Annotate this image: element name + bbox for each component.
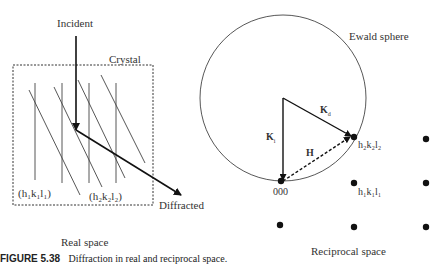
point-h1k1l1-label: h₁k₁l₁ xyxy=(358,186,381,197)
incident-label: Incident xyxy=(57,17,93,29)
point-h2k2l2-label: h₂k₂l₂ xyxy=(358,139,381,150)
figure-number: FIGURE 5.38 xyxy=(0,253,60,264)
real-space-panel xyxy=(13,36,181,205)
plane-label-2: (h₂k₂l₂) xyxy=(89,190,122,202)
origin-label: 000 xyxy=(273,186,288,197)
reciprocal-lattice-points xyxy=(277,134,429,230)
ewald-sphere-label: Ewald sphere xyxy=(349,30,409,42)
lattice-planes-2 xyxy=(29,75,145,195)
diffracted-label: Diffracted xyxy=(159,199,204,211)
kd-label: Kd xyxy=(320,104,331,117)
reciprocal-space-panel xyxy=(200,15,429,230)
ki-label: Ki xyxy=(266,131,275,144)
h-label: H xyxy=(306,147,314,158)
reciprocal-space-title: Reciprocal space xyxy=(311,245,386,257)
real-space-title: Real space xyxy=(61,236,108,248)
plane-label-1: (h₁k₁l₁) xyxy=(18,187,51,199)
crystal-label: Crystal xyxy=(109,53,141,65)
caption-text: Diffraction in real and reciprocal space… xyxy=(69,253,228,264)
kd-vector-arrow xyxy=(283,98,351,136)
diffracted-beam-arrow xyxy=(76,130,181,195)
figure-caption: FIGURE 5.38 Diffraction in real and reci… xyxy=(0,253,227,264)
